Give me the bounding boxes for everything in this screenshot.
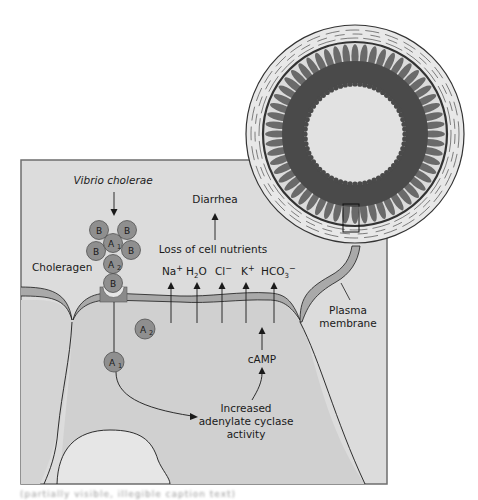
camp-label: cAMP bbox=[248, 353, 276, 365]
figure-caption: (partially visible, illegible caption te… bbox=[20, 489, 478, 500]
enzyme-label-line3: activity bbox=[227, 428, 266, 440]
outcome-label: Diarrhea bbox=[192, 193, 237, 205]
a-label: A bbox=[108, 260, 115, 270]
a2-subscript: 2 bbox=[149, 329, 153, 337]
intestine-cross-section bbox=[246, 25, 464, 243]
b-subunit: B bbox=[87, 242, 106, 261]
b-subunit: B bbox=[122, 241, 141, 260]
a2-subscript: 2 bbox=[117, 264, 121, 272]
a2-subunit: A 2 bbox=[104, 255, 123, 274]
enzyme-label-line1: Increased bbox=[220, 402, 271, 414]
b-subunit-bound: B bbox=[104, 274, 123, 293]
a1-subunit-internal: A 1 bbox=[104, 352, 124, 372]
b-label: B bbox=[128, 246, 134, 256]
organism-label: Vibrio cholerae bbox=[73, 174, 152, 186]
a1-subscript: 1 bbox=[117, 243, 121, 251]
b-label: B bbox=[96, 226, 102, 236]
loss-label: Loss of cell nutrients bbox=[159, 243, 268, 255]
membrane-label-line1: Plasma bbox=[329, 304, 367, 316]
enzyme-label-line2: adenylate cyclase bbox=[199, 415, 294, 427]
b-label: B bbox=[93, 247, 99, 257]
a-label: A bbox=[109, 358, 116, 368]
b-label: B bbox=[110, 279, 116, 289]
b-label: B bbox=[124, 226, 130, 236]
cholera-toxin-diagram: B B B B A 1 A 2 B A 2 bbox=[0, 0, 478, 500]
a2-subunit-internal: A 2 bbox=[135, 319, 155, 339]
a1-subunit: A 1 bbox=[104, 234, 123, 253]
membrane-label-line2: membrane bbox=[319, 317, 376, 329]
a-label: A bbox=[108, 239, 115, 249]
a-label: A bbox=[140, 325, 147, 335]
a1-subscript: 1 bbox=[118, 362, 122, 370]
toxin-label: Choleragen bbox=[32, 261, 92, 273]
